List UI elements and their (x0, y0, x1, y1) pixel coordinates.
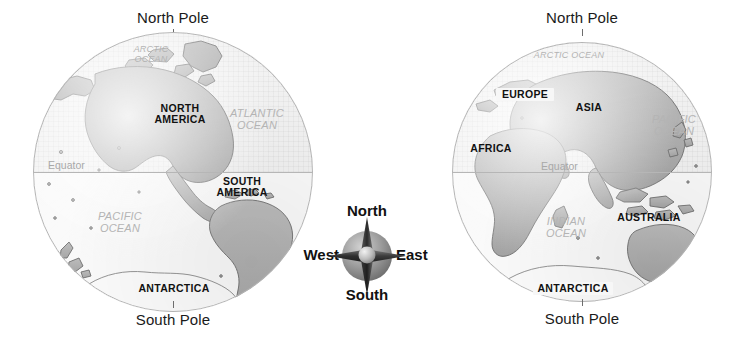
arctic-ocean-label-west: ARCTIC OCEAN (116, 44, 186, 64)
west-south-pole-tick (173, 301, 174, 308)
arctic-ocean-line2: OCEAN (116, 54, 186, 64)
arctic-ocean-line1: ARCTIC (116, 44, 186, 54)
pacific-ocean-east-line2: OCEAN (638, 125, 710, 137)
atlantic-ocean-line2: OCEAN (215, 119, 299, 131)
pacific-ocean-label-east: PACIFIC OCEAN (638, 113, 710, 137)
south-america-label: SOUTH AMERICA (204, 176, 280, 198)
africa-label: AFRICA (464, 143, 518, 154)
south-america-line2: AMERICA (204, 187, 280, 198)
west-equator-label: Equator (48, 159, 85, 171)
map-figure: North Pole (0, 0, 729, 346)
asia-label: ASIA (566, 102, 612, 113)
east-equator-line (453, 172, 712, 173)
east-south-pole-label: South Pole (524, 310, 640, 327)
europe-label: EUROPE (496, 88, 554, 101)
pacific-ocean-east-line1: PACIFIC (638, 113, 710, 125)
atlantic-ocean-label: ATLANTIC OCEAN (215, 107, 299, 131)
pacific-ocean-label-west: PACIFIC OCEAN (82, 210, 158, 234)
west-north-pole-label: North Pole (115, 9, 231, 26)
pacific-ocean-line1: PACIFIC (82, 210, 158, 222)
north-america-label: NORTH AMERICA (142, 103, 218, 125)
east-north-pole-label: North Pole (524, 9, 640, 26)
australia-label: AUSTRALIA (616, 212, 682, 223)
east-south-pole-tick (582, 299, 583, 306)
north-america-line2: AMERICA (142, 114, 218, 125)
indian-ocean-line2: OCEAN (530, 227, 602, 239)
compass-rose: North South West East (292, 202, 442, 310)
west-equator-line (34, 172, 313, 173)
antarctica-label-west: ANTARCTICA (120, 283, 228, 294)
east-equator-label: Equator (541, 160, 578, 172)
pacific-ocean-line2: OCEAN (82, 222, 158, 234)
arctic-ocean-label-east: ARCTIC OCEAN (516, 50, 622, 60)
compass-rose-graphic (292, 202, 442, 310)
atlantic-ocean-line1: ATLANTIC (215, 107, 299, 119)
indian-ocean-label: INDIAN OCEAN (530, 215, 602, 239)
antarctica-label-east: ANTARCTICA (533, 282, 613, 295)
indian-ocean-line1: INDIAN (530, 215, 602, 227)
west-south-pole-label: South Pole (115, 311, 231, 328)
east-north-pole-tick (582, 29, 583, 36)
